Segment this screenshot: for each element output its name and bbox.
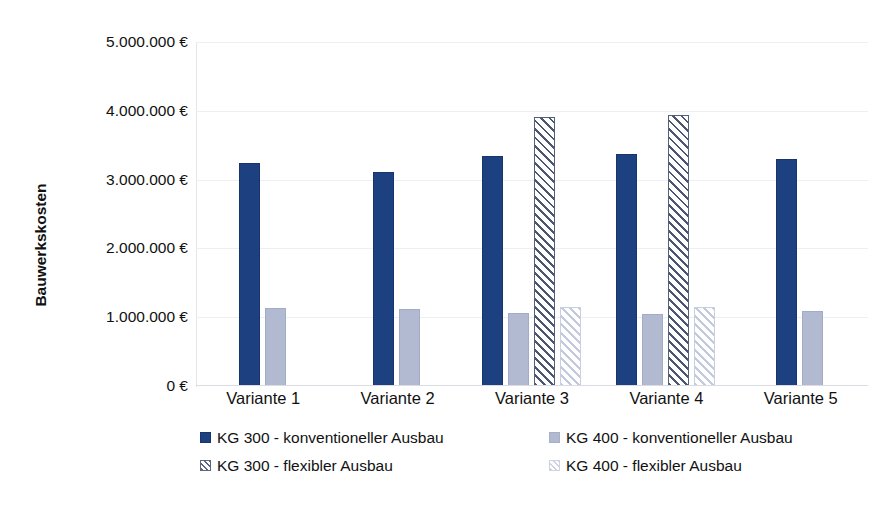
gridline bbox=[196, 180, 868, 181]
y-tick-label: 0 € bbox=[63, 377, 188, 395]
x-axis-label-3: Variante 3 bbox=[465, 389, 599, 408]
bar-kg400-flex-3 bbox=[560, 307, 581, 386]
legend-item-kg400-flex[interactable]: KG 400 - flexibler Ausbau bbox=[549, 458, 742, 474]
bar-kg400-konv-5 bbox=[802, 311, 823, 386]
legend-swatch-kg400-flex bbox=[549, 460, 560, 471]
x-axis-line bbox=[196, 385, 868, 386]
y-axis-tick-labels: 0 €1.000.000 €2.000.000 €3.000.000 €4.00… bbox=[60, 42, 188, 387]
y-tick-label: 2.000.000 € bbox=[63, 239, 188, 257]
y-tick-label: 5.000.000 € bbox=[63, 33, 188, 51]
bar-kg400-konv-4 bbox=[642, 314, 663, 386]
bar-kg300-konv-2 bbox=[373, 172, 394, 386]
legend-item-kg300-konv[interactable]: KG 300 - konventioneller Ausbau bbox=[200, 430, 444, 446]
bar-kg400-konv-3 bbox=[508, 313, 529, 386]
x-axis-label-2: Variante 2 bbox=[330, 389, 464, 408]
legend-item-kg300-flex[interactable]: KG 300 - flexibler Ausbau bbox=[200, 458, 393, 474]
gridline bbox=[196, 42, 868, 43]
x-axis-label-5: Variante 5 bbox=[734, 389, 868, 408]
gridline bbox=[196, 111, 868, 112]
bar-kg400-konv-2 bbox=[399, 309, 420, 386]
bar-kg300-konv-1 bbox=[239, 163, 260, 386]
x-axis-label-1: Variante 1 bbox=[196, 389, 330, 408]
chart-legend: KG 300 - konventioneller Ausbau KG 400 -… bbox=[200, 428, 880, 490]
legend-swatch-kg300-flex bbox=[200, 460, 211, 471]
legend-label-kg400-konv: KG 400 - konventioneller Ausbau bbox=[566, 430, 793, 446]
bar-kg300-konv-5 bbox=[776, 159, 797, 386]
y-tick-label: 4.000.000 € bbox=[63, 102, 188, 120]
x-axis-category-labels: Variante 1Variante 2Variante 3Variante 4… bbox=[196, 389, 868, 415]
bar-kg400-konv-1 bbox=[265, 308, 286, 386]
gridline bbox=[196, 317, 868, 318]
legend-label-kg400-flex: KG 400 - flexibler Ausbau bbox=[566, 458, 742, 474]
legend-label-kg300-flex: KG 300 - flexibler Ausbau bbox=[217, 458, 393, 474]
legend-swatch-kg300-konv bbox=[200, 432, 211, 443]
bar-kg400-flex-4 bbox=[694, 307, 715, 386]
plot-area bbox=[196, 42, 868, 386]
bar-kg300-flex-3 bbox=[534, 117, 555, 386]
legend-label-kg300-konv: KG 300 - konventioneller Ausbau bbox=[217, 430, 444, 446]
gridline bbox=[196, 248, 868, 249]
bar-kg300-konv-4 bbox=[616, 154, 637, 386]
legend-item-kg400-konv[interactable]: KG 400 - konventioneller Ausbau bbox=[549, 430, 793, 446]
bar-kg300-konv-3 bbox=[482, 156, 503, 386]
bar-kg300-flex-4 bbox=[668, 115, 689, 386]
bar-chart: Bauwerkskosten 0 €1.000.000 €2.000.000 €… bbox=[0, 0, 889, 509]
x-axis-label-4: Variante 4 bbox=[599, 389, 733, 408]
y-tick-label: 3.000.000 € bbox=[63, 171, 188, 189]
y-tick-label: 1.000.000 € bbox=[63, 308, 188, 326]
legend-swatch-kg400-konv bbox=[549, 432, 560, 443]
y-axis-title: Bauwerkskosten bbox=[32, 150, 62, 340]
